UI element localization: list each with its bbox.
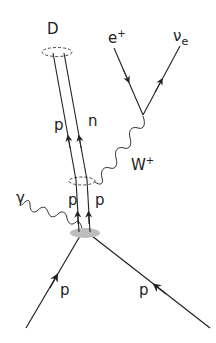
neutrino-arrow-icon [155, 81, 161, 92]
incoming-proton-right-arrow-icon [156, 286, 166, 294]
pp-bound-state [69, 177, 95, 185]
positron-line [114, 48, 143, 115]
w-boson-label: W+ [131, 156, 154, 173]
positron-arrow-icon [123, 69, 128, 80]
neutron-upper-label: n [88, 114, 98, 129]
positron-label-base: e [108, 29, 117, 47]
incoming-proton-right-line [92, 236, 210, 328]
neutrino-label: νe [173, 29, 188, 47]
deuteron-bound-state [42, 48, 72, 57]
neutron-line-upper [64, 53, 87, 180]
positron-label: e+ [108, 29, 126, 46]
proton-mid-right-label: p [95, 193, 105, 208]
pp-line-right [87, 180, 90, 232]
w-boson-label-base: W [131, 156, 146, 174]
proton-mid-left-label: p [68, 193, 78, 208]
deuteron-label: D [47, 22, 59, 37]
feynman-diagram [0, 0, 216, 343]
interaction-blob [70, 228, 100, 238]
w-boson-label-sup: + [146, 155, 154, 166]
photon-label: γ [16, 191, 25, 206]
proton-upper-label: p [54, 118, 64, 133]
neutrino-line [143, 46, 180, 115]
proton-in-right-label: p [139, 283, 149, 298]
incoming-proton-left-arrow-icon [50, 277, 56, 288]
proton-in-left-label: p [60, 283, 70, 298]
positron-label-sup: + [117, 28, 125, 39]
neutrino-label-sub: e [181, 35, 188, 48]
